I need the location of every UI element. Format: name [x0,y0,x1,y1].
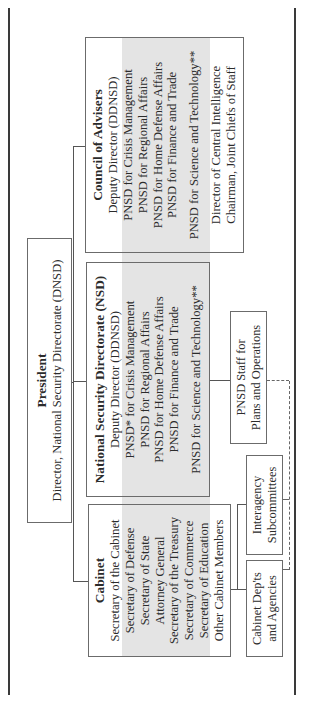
cabinet-line: Secretary of the Treasury [167,517,182,644]
council-science: PNSD for Science and Technology** [187,51,202,239]
org-chart: President Director, National Security Di… [0,0,311,712]
council-title: Council of Advisers [90,89,106,201]
nsd-line: PNSD for Finance and Trade [167,306,182,452]
nsd-box: National Security Directorate (NSD) Depu… [86,262,210,497]
nsd-connector [73,381,86,382]
pnsd-staff-box: PNSD Staff for Plans and Operations [230,311,267,444]
interagency-line: Interagency [250,476,265,534]
nsd-title: National Security Directorate (NSD) [92,276,108,484]
nsd-to-staff-connector [210,380,230,381]
pnsd-staff-line: PNSD Staff for [234,339,249,415]
interagency-box: Interagency Subcommittees [246,455,283,555]
cabinet-line: Secretary of State [138,536,153,626]
cabinet-connector [73,581,88,582]
pnsd-staff-line: Plans and Operations [249,325,264,430]
cabinet-depts-line: Cabinet Dep'ts [250,572,265,645]
interagency-dashed [283,499,289,500]
council-box: Council of Advisers Deputy Director (DDN… [85,37,244,253]
subs-bar [237,504,238,590]
council-connector [73,146,85,147]
president-title: President [34,353,50,407]
trunk-line [73,146,74,582]
council-extra: Chairman, Joint Chiefs of Staff [224,66,239,224]
council-line: PNSD for Home Defense Affairs [151,62,166,228]
cabinet-line: Attorney General [153,537,168,625]
nsd-line: PNSD* for Crisis Management [123,301,138,459]
president-box: President Director, National Security Di… [27,238,72,523]
cabinet-line: Secretary of Defense [123,528,138,634]
interagency-connector [237,504,246,505]
cabinet-to-subs-connector [231,589,246,590]
president-subtitle: Director, National Security Directorate … [50,260,65,502]
cabinet-box: Cabinet Secretary of the Cabinet Secreta… [88,504,231,657]
council-line: PNSD for Regional Affairs [136,77,151,214]
nsd-line: PNSD for Home Defense Affairs [152,296,167,462]
council-line: PNSD for Finance and Trade [165,72,180,218]
cabinet-depts-line: and Agencies [265,575,280,641]
staff-dashed-down [267,380,289,381]
interagency-line: Subcommittees [265,467,280,543]
dashed-bar [289,381,290,570]
depts-dashed [283,569,289,570]
cabinet-line: Secretary of Education [197,523,212,638]
nsd-science: PNSD for Science and Technology** [189,285,204,473]
cabinet-line: Secretary of the Cabinet [108,519,123,641]
cabinet-line: Other Cabinet Members [212,520,227,642]
council-extra: Director of Central Intelligence [209,66,224,224]
nsd-line: Deputy Director (DDNSD) [108,311,123,448]
cabinet-title: Cabinet [92,558,108,603]
bottom-rule [294,8,296,695]
council-line: Deputy Director (DDNSD) [106,76,121,213]
cabinet-depts-box: Cabinet Dep'ts and Agencies [246,560,283,657]
cabinet-line: Secretary of Commerce [182,521,197,641]
top-rule [8,8,10,695]
nsd-line: PNSD for Regional Affairs [138,311,153,448]
council-line: PNSD for Crisis Management [121,69,136,220]
